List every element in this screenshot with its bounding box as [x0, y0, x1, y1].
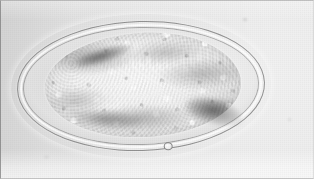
micrograph-viewport: ovum	[0, 0, 314, 179]
film-grain-overlay	[0, 0, 314, 179]
